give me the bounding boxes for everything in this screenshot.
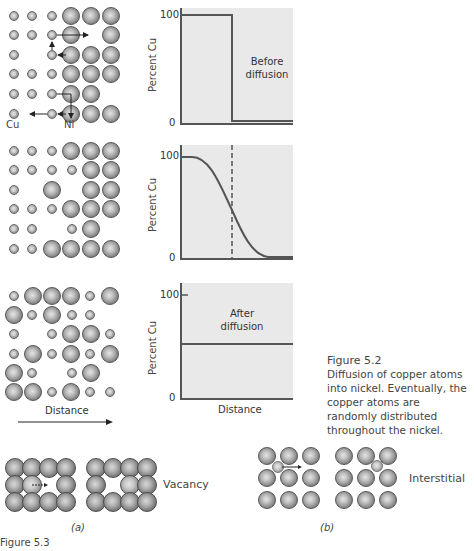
interstitial-atom [371,460,383,472]
plot-area [180,145,293,260]
cu-atom [105,329,115,339]
cu-atom [85,387,95,397]
atom [302,491,320,509]
cu-label: Cu [6,119,19,130]
y-tick-100: 100 [160,9,179,20]
cu-atom [85,349,95,359]
plot-before: Percent Cu 100 0 Before diffusion [140,0,300,130]
atom [335,447,353,465]
plot-after: Percent Cu 100 0 After diffusion Distanc… [140,275,300,420]
vacancy-diagram: Vacancy [0,455,240,525]
cu-atom [105,387,115,397]
x-axis-label: Distance [218,404,262,415]
y-tick-0: 0 [169,252,175,263]
ni-atom [101,287,119,305]
ni-atom [43,306,61,324]
ni-atom [43,287,61,305]
diffusion-arrows [0,0,120,130]
part-a-label: (a) [71,522,85,533]
cu-atom [67,310,77,320]
ni-atom [43,181,61,199]
y-axis-label: Percent Cu [147,38,158,92]
ni-atom [82,364,100,382]
ni-atom [62,287,80,305]
cu-atom [27,244,37,254]
cu-atom [27,310,37,320]
atom [56,492,76,512]
ni-atom [82,161,100,179]
cu-atom [27,165,37,175]
ni-atom [24,345,42,363]
ni-atom [102,240,120,258]
ni-atom [24,287,42,305]
cu-atom [47,349,57,359]
cu-atom [9,146,19,156]
atom [335,469,353,487]
cu-atom [67,224,77,234]
cu-atom [27,146,37,156]
ni-atom [62,240,80,258]
y-tick-0: 0 [169,392,175,403]
vacancy-label: Vacancy [163,478,209,491]
figure-5-2-caption: Figure 5.2 Diffusion of copper atoms int… [327,354,472,437]
atom [357,469,375,487]
y-tick-0: 0 [169,117,175,128]
cu-atom [47,387,57,397]
cu-atom [85,291,95,301]
cu-atom [67,368,77,378]
cu-atom [47,146,57,156]
ni-atom [62,200,80,218]
ni-atom [82,240,100,258]
ni-atom [62,142,80,160]
lattice-during [0,135,120,265]
cu-atom [67,165,77,175]
atom [379,491,397,509]
ni-atom [82,200,100,218]
ni-atom [62,325,80,343]
ni-atom [101,345,119,363]
ni-atom [62,345,80,363]
ni-atom [82,325,100,343]
cu-atom [27,204,37,214]
ni-atom [102,181,120,199]
atom [357,491,375,509]
interstitial-label: Interstitial [409,472,465,485]
cu-atom [47,165,57,175]
ni-atom [82,220,100,238]
cu-atom [27,368,37,378]
cu-atom [9,329,19,339]
cu-atom [9,204,19,214]
ni-label: Ni [64,119,74,130]
figure-5-3-caption: Figure 5.3 [0,537,50,548]
cu-atom [27,224,37,234]
vacancy-arrow [32,480,62,490]
caption-title: Figure 5.2 [327,354,472,367]
cu-atom [47,329,57,339]
plot-during: Percent Cu 100 0 [140,135,300,265]
ni-atom [102,200,120,218]
ni-atom [82,181,100,199]
ni-atom [24,383,42,401]
atom [258,491,276,509]
plot-area: After diffusion [180,283,293,400]
ni-atom [5,364,23,382]
plot-area: Before diffusion [180,8,293,125]
plot-annotation: Before diffusion [242,55,292,81]
atom [379,469,397,487]
ni-atom [102,142,120,160]
atom [280,491,298,509]
ni-atom [5,306,23,324]
ni-atom [43,240,61,258]
part-b-label: (b) [320,522,334,533]
y-tick-100: 100 [160,289,179,300]
y-tick-100: 100 [160,150,179,161]
y-axis-label: Percent Cu [147,178,158,232]
distance-arrow: Distance [18,405,113,430]
cu-atom [9,165,19,175]
ni-atom [62,383,80,401]
lattice-after [0,275,120,405]
cu-atom [9,224,19,234]
caption-text: Diffusion of copper atoms into nickel. E… [327,367,472,437]
ni-atom [82,142,100,160]
cu-atom [9,291,19,301]
